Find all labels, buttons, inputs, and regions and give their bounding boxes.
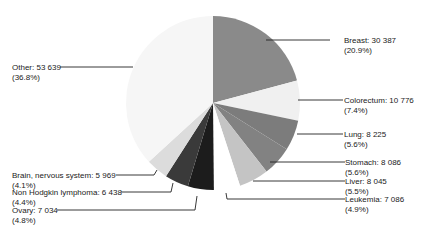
label-leukemia-line2: (4.9%)	[345, 205, 404, 215]
pie-slices	[126, 16, 300, 190]
label-liver-line1: Liver: 8 045	[345, 177, 387, 187]
label-brain: Brain, nervous system: 5 969 (4.1%)	[12, 171, 116, 190]
label-colorectum-line1: Colorectum: 10 776	[344, 96, 414, 106]
label-leukemia: Leukemia: 7 086 (4.9%)	[345, 195, 404, 214]
label-colorectum: Colorectum: 10 776 (7.4%)	[344, 96, 414, 115]
leader-line-nhl	[121, 183, 173, 192]
label-breast-line1: Breast: 30 387	[344, 36, 396, 46]
leader-line-brain	[116, 170, 157, 175]
label-lung-line1: Lung: 8 225	[344, 130, 386, 140]
label-ovary-line2: (4.8%)	[12, 216, 58, 226]
label-other: Other: 53 639 (36.8%)	[12, 63, 61, 82]
label-other-line2: (36.8%)	[12, 73, 61, 83]
label-other-line1: Other: 53 639	[12, 63, 61, 73]
label-ovary: Ovary: 7 034 (4.8%)	[12, 206, 58, 225]
label-breast: Breast: 30 387 (20.9%)	[344, 36, 396, 55]
label-breast-line2: (20.9%)	[344, 46, 396, 56]
label-lung-line2: (5.6%)	[344, 140, 386, 150]
label-nhl-line2: (4.4%)	[12, 198, 122, 208]
label-liver: Liver: 8 045 (5.5%)	[345, 177, 387, 196]
label-brain-line1: Brain, nervous system: 5 969	[12, 171, 116, 181]
label-stomach-line2: (5.6%)	[345, 168, 401, 178]
label-colorectum-line2: (7.4%)	[344, 106, 414, 116]
label-stomach: Stomach: 8 086 (5.6%)	[345, 158, 401, 177]
label-lung: Lung: 8 225 (5.6%)	[344, 130, 386, 149]
label-brain-line2: (4.1%)	[12, 181, 116, 191]
leader-line-leukemia	[226, 193, 345, 199]
label-nhl: Non Hodgkin lymphoma: 6 438 (4.4%)	[12, 188, 122, 207]
label-leukemia-line1: Leukemia: 7 086	[345, 195, 404, 205]
label-stomach-line1: Stomach: 8 086	[345, 158, 401, 168]
label-ovary-line1: Ovary: 7 034	[12, 206, 58, 216]
